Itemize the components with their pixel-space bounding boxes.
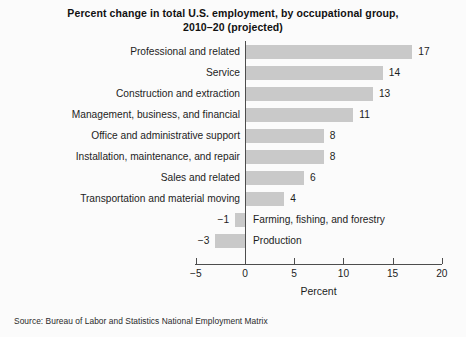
bar-row: Transportation and material moving4 bbox=[0, 188, 466, 209]
category-label: Construction and extraction bbox=[116, 86, 240, 101]
source-note: Source: Bureau of Labor and Statistics N… bbox=[14, 316, 268, 326]
chart-title-line-2: 2010–20 (projected) bbox=[0, 20, 466, 34]
category-label: Production bbox=[253, 233, 302, 248]
bar bbox=[245, 129, 324, 143]
zero-axis-line bbox=[245, 41, 246, 259]
plot-area: Professional and related17Service14Const… bbox=[0, 41, 466, 259]
category-label: Installation, maintenance, and repair bbox=[76, 149, 240, 164]
x-axis-tick-label: 20 bbox=[436, 267, 447, 280]
value-label: 4 bbox=[290, 191, 296, 206]
category-label: Farming, fishing, and forestry bbox=[253, 212, 385, 227]
bar-row: Professional and related17 bbox=[0, 41, 466, 62]
x-axis-tick bbox=[393, 258, 394, 264]
bar bbox=[245, 87, 373, 101]
bar bbox=[245, 192, 284, 206]
x-axis-tick-label: 15 bbox=[387, 267, 398, 280]
bar-row: Service14 bbox=[0, 62, 466, 83]
category-label: Sales and related bbox=[161, 170, 240, 185]
value-label: −3 bbox=[191, 233, 209, 248]
x-axis-tick-label: 0 bbox=[242, 267, 248, 280]
bar bbox=[235, 213, 245, 227]
value-label: 17 bbox=[418, 44, 429, 59]
bar bbox=[245, 45, 412, 59]
chart-title-line-1: Percent change in total U.S. employment,… bbox=[67, 7, 398, 19]
bar bbox=[245, 108, 353, 122]
value-label: 8 bbox=[330, 128, 336, 143]
bar-row: Management, business, and financial11 bbox=[0, 104, 466, 125]
x-axis-tick bbox=[245, 258, 246, 264]
x-axis-line bbox=[195, 264, 442, 265]
chart-figure: Percent change in total U.S. employment,… bbox=[0, 0, 466, 337]
bar bbox=[215, 234, 245, 248]
x-axis-tick-label: 10 bbox=[338, 267, 349, 280]
bar-row: Construction and extraction13 bbox=[0, 83, 466, 104]
value-label: 8 bbox=[330, 149, 336, 164]
bar-row: Sales and related6 bbox=[0, 167, 466, 188]
category-label: Management, business, and financial bbox=[72, 107, 240, 122]
value-label: 13 bbox=[379, 86, 390, 101]
value-label: 6 bbox=[310, 170, 316, 185]
chart-title: Percent change in total U.S. employment,… bbox=[0, 6, 466, 34]
x-axis-tick bbox=[442, 258, 443, 264]
category-label: Transportation and material moving bbox=[80, 191, 240, 206]
category-label: Professional and related bbox=[130, 44, 240, 59]
bar bbox=[245, 150, 324, 164]
value-label: 11 bbox=[359, 107, 370, 122]
x-axis-tick bbox=[343, 258, 344, 264]
bar-row: Office and administrative support8 bbox=[0, 125, 466, 146]
value-label: −1 bbox=[211, 212, 229, 227]
x-axis-title: Percent bbox=[195, 285, 442, 297]
bar bbox=[245, 66, 383, 80]
x-axis-tick bbox=[196, 258, 197, 264]
x-axis-tick-label: −5 bbox=[190, 267, 202, 280]
x-axis-tick bbox=[294, 258, 295, 264]
bar-row: Production−3 bbox=[0, 230, 466, 251]
category-label: Service bbox=[206, 65, 240, 80]
value-label: 14 bbox=[389, 65, 400, 80]
x-axis-tick-label: 5 bbox=[291, 267, 297, 280]
bar-row: Farming, fishing, and forestry−1 bbox=[0, 209, 466, 230]
bar bbox=[245, 171, 304, 185]
category-label: Office and administrative support bbox=[91, 128, 240, 143]
bar-row: Installation, maintenance, and repair8 bbox=[0, 146, 466, 167]
